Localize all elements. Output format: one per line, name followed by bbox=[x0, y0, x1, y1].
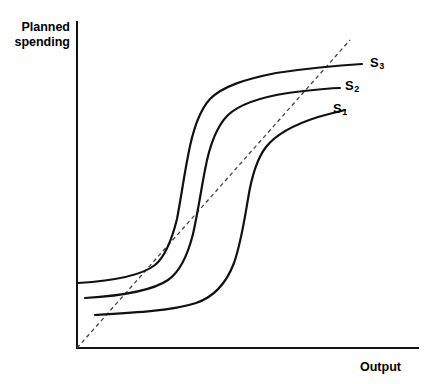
curve-label-s3-base: S bbox=[370, 55, 379, 70]
curve-label-s2-subscript: 2 bbox=[354, 84, 359, 94]
curve-s3 bbox=[78, 64, 362, 283]
curve-label-s2: S2 bbox=[345, 78, 359, 93]
curve-label-s2-base: S bbox=[345, 78, 354, 93]
curve-s1 bbox=[95, 110, 345, 315]
forty-five-degree-line bbox=[77, 40, 350, 348]
planned-spending-output-figure: Planned spending Output S3 S2 S1 bbox=[0, 0, 433, 384]
curve-s2 bbox=[85, 88, 340, 298]
curve-label-s1-base: S bbox=[333, 101, 342, 116]
y-axis-title: Planned spending bbox=[8, 20, 70, 51]
curve-label-s1-subscript: 1 bbox=[342, 107, 347, 117]
curve-label-s3-subscript: 3 bbox=[379, 61, 384, 71]
x-axis-title: Output bbox=[360, 360, 430, 375]
chart-canvas bbox=[0, 0, 433, 384]
curve-label-s1: S1 bbox=[333, 101, 347, 116]
curve-label-s3: S3 bbox=[370, 55, 384, 70]
